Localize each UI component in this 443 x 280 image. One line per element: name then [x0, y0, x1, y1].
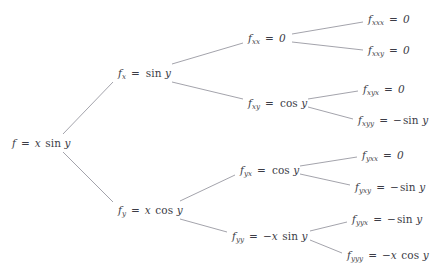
trig-function-name: cos — [279, 97, 298, 109]
node-equals-sign: = — [384, 44, 403, 56]
tree-node-fxxx: fxxx = 0 — [368, 14, 410, 25]
node-subscript: yxy — [359, 186, 371, 195]
tree-node-fyx: fyx = cos y — [240, 165, 299, 176]
node-expression: −x cos y — [382, 249, 429, 261]
tree-node-root: f = x sin y — [12, 138, 71, 149]
node-equals-sign: = — [126, 204, 145, 216]
tree-edge-fyy-to-fyyy — [310, 240, 342, 253]
trig-function-name: cos — [400, 249, 419, 261]
node-equals-sign: = — [16, 137, 35, 149]
tree-node-fyxy: fyxy = −sin y — [355, 182, 425, 193]
tree-edge-fx-to-fxx — [172, 43, 243, 64]
node-equals-sign: = — [371, 181, 390, 193]
node-subscript: xxy — [372, 49, 384, 58]
tree-node-fxyy: fxyy = −sin y — [358, 115, 428, 126]
node-subscript: yxx — [366, 154, 378, 163]
node-equals-sign: = — [384, 13, 403, 25]
node-expression: cos y — [271, 164, 299, 176]
tree-node-fx: fx = sin y — [118, 68, 171, 79]
tree-edge-fyy-to-fyyx — [310, 222, 347, 231]
node-expression: sin y — [145, 67, 171, 79]
tree-node-fyyy: fyyy = −x cos y — [347, 250, 429, 261]
tree-edge-fy-to-fyx — [180, 175, 235, 201]
node-expression: x cos y — [145, 204, 183, 216]
node-expression: 0 — [397, 149, 404, 161]
derivative-tree-diagram: f = x sin yfx = sin yfy = x cos yfxx = 0… — [0, 0, 443, 280]
trig-function-name: sin — [145, 67, 162, 79]
trig-function-name: sin — [402, 114, 419, 126]
tree-node-fxyx: fxyx = 0 — [363, 84, 405, 95]
node-equals-sign: = — [252, 164, 271, 176]
node-equals-sign: = — [260, 32, 279, 44]
tree-edge-fxx-to-fxxy — [292, 42, 363, 50]
tree-edge-fyx-to-fyxx — [300, 157, 357, 166]
node-equals-sign: = — [379, 83, 398, 95]
node-expression: −sin y — [390, 181, 425, 193]
node-subscript: y — [122, 209, 126, 218]
node-subscript: xxx — [372, 18, 384, 27]
node-subscript: yyy — [351, 254, 363, 263]
node-equals-sign: = — [363, 249, 382, 261]
tree-edge-fxx-to-fxxx — [292, 22, 363, 34]
node-subscript: xy — [252, 102, 260, 111]
node-equals-sign: = — [244, 230, 263, 242]
node-subscript: yy — [236, 235, 244, 244]
node-equals-sign: = — [126, 67, 145, 79]
tree-edge-fxy-to-fxyx — [308, 91, 358, 99]
node-expression: cos y — [279, 97, 307, 109]
node-subscript: xx — [252, 37, 260, 46]
node-expression: 0 — [398, 83, 405, 95]
trig-function-name: sin — [44, 137, 61, 149]
node-subscript: xyx — [367, 88, 379, 97]
node-equals-sign: = — [368, 213, 387, 225]
node-subscript: xyy — [362, 119, 374, 128]
trig-function-name: cos — [271, 164, 290, 176]
tree-edge-fyx-to-fyxy — [300, 174, 350, 185]
tree-node-fxx: fxx = 0 — [248, 33, 286, 44]
tree-node-fyyx: fyyx = −sin y — [352, 214, 422, 225]
node-equals-sign: = — [378, 149, 397, 161]
tree-edge-root-to-fx — [63, 82, 113, 134]
node-expression: 0 — [279, 32, 286, 44]
node-subscript: x — [122, 72, 126, 81]
trig-function-name: sin — [281, 230, 298, 242]
node-expression: 0 — [403, 44, 410, 56]
node-equals-sign: = — [260, 97, 279, 109]
node-equals-sign: = — [374, 114, 393, 126]
node-subscript: yyx — [356, 218, 368, 227]
trig-function-name: sin — [399, 181, 416, 193]
node-expression: −sin y — [387, 213, 422, 225]
tree-edge-fx-to-fxy — [172, 82, 243, 99]
trig-function-name: sin — [396, 213, 413, 225]
tree-node-fxy: fxy = cos y — [248, 98, 307, 109]
tree-edge-fxy-to-fxyy — [308, 107, 353, 119]
node-subscript: yx — [244, 169, 252, 178]
tree-edge-root-to-fy — [63, 152, 113, 202]
node-expression: 0 — [403, 13, 410, 25]
node-expression: x sin y — [35, 137, 71, 149]
tree-node-fyy: fyy = −x sin y — [232, 231, 308, 242]
trig-function-name: cos — [154, 204, 173, 216]
tree-edge-fy-to-fyy — [180, 219, 227, 232]
node-expression: −sin y — [393, 114, 428, 126]
tree-node-fy: fy = x cos y — [118, 205, 183, 216]
node-expression: −x sin y — [263, 230, 308, 242]
tree-node-fyxx: fyxx = 0 — [362, 150, 404, 161]
tree-node-fxxy: fxxy = 0 — [368, 45, 410, 56]
